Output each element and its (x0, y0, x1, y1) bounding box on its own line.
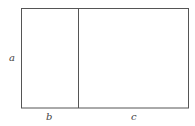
label-b: b (46, 111, 52, 122)
label-c: c (131, 111, 137, 122)
label-a: a (9, 52, 15, 63)
rectangle-diagram: a b c (0, 0, 195, 126)
outer-rectangle (22, 9, 189, 109)
